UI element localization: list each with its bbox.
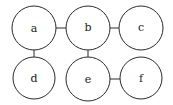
node-d: d [13, 57, 55, 99]
node-label-b: b [84, 21, 91, 34]
node-label-c: c [138, 21, 144, 34]
node-a: a [12, 6, 56, 50]
node-label-d: d [30, 72, 37, 85]
node-c: c [119, 6, 163, 50]
node-b: b [66, 6, 110, 50]
graph-diagram: a b c d e f [0, 0, 173, 105]
node-label-e: e [85, 73, 92, 86]
node-f: f [120, 57, 162, 99]
node-e: e [66, 57, 110, 101]
node-label-a: a [31, 22, 38, 35]
